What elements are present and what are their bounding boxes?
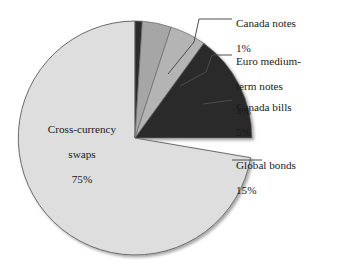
pie-label-canada-notes-name: Canada notes <box>236 17 348 30</box>
pie-label-cross-currency-swaps-value: 75% <box>24 173 140 186</box>
pie-label-cross-currency-swaps: Cross-currency swaps 75% <box>24 110 140 198</box>
pie-label-canada-bills-name: Canada bills <box>236 101 348 114</box>
pie-label-canada-bills: Canada bills 5% <box>236 88 348 151</box>
pie-label-canada-bills-value: 5% <box>236 126 348 139</box>
pie-label-global-bonds: Global bonds 15% <box>236 146 348 209</box>
pie-label-euro-medium-term-notes-name-line1: Euro medium- <box>236 55 348 68</box>
pie-label-cross-currency-swaps-name-line1: Cross-currency <box>24 123 140 136</box>
pie-chart-figure: Canada notes 1% Euro medium- term notes … <box>0 0 352 270</box>
pie-label-global-bonds-value: 15% <box>236 184 348 197</box>
pie-label-global-bonds-name: Global bonds <box>236 159 348 172</box>
pie-label-cross-currency-swaps-name-line2: swaps <box>24 148 140 161</box>
